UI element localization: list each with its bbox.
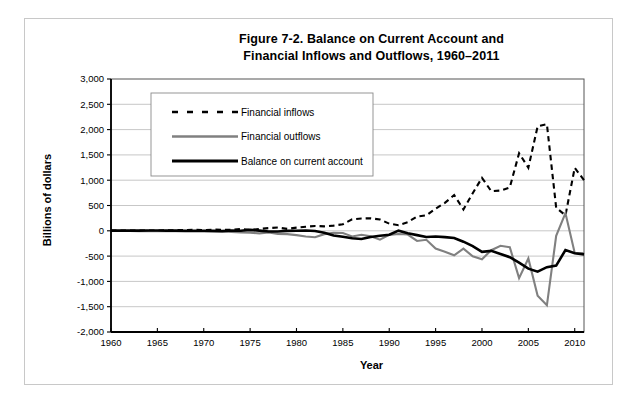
x-tick-label: 1970: [193, 337, 214, 348]
y-axis-ticks: 3,0002,5002,0001,5001,0005000-500-1,000-…: [77, 73, 111, 337]
x-tick-label: 2010: [564, 337, 585, 348]
chart-legend: Financial inflowsFinancial outflowsBalan…: [151, 93, 373, 176]
y-tick-label: 500: [88, 200, 104, 211]
y-tick-label: 1,500: [80, 149, 104, 160]
chart-plot: 3,0002,5002,0001,5001,0005000-500-1,000-…: [25, 19, 614, 386]
y-tick-label: 0: [99, 225, 104, 236]
y-tick-label: 2,000: [80, 124, 104, 135]
series-line: [111, 230, 584, 272]
x-tick-label: 1980: [286, 337, 307, 348]
x-tick-label: 1985: [332, 337, 353, 348]
y-tick-label: -2,000: [77, 326, 104, 337]
x-tick-label: 1960: [100, 337, 121, 348]
y-tick-label: -500: [85, 251, 104, 262]
figure-frame: Figure 7-2. Balance on Current Account a…: [24, 18, 613, 385]
legend-label: Balance on current account: [241, 156, 363, 167]
x-tick-label: 1995: [425, 337, 446, 348]
y-tick-label: -1,500: [77, 301, 104, 312]
x-tick-label: 1965: [147, 337, 168, 348]
y-tick-label: 3,000: [80, 73, 104, 84]
x-axis-ticks: 1960196519701975198019851990199520002005…: [100, 328, 585, 348]
legend-label: Financial outflows: [241, 131, 320, 142]
legend-label: Financial inflows: [241, 107, 314, 118]
y-tick-label: 1,000: [80, 175, 104, 186]
y-tick-label: -1,000: [77, 276, 104, 287]
x-tick-label: 1975: [240, 337, 261, 348]
y-tick-label: 2,500: [80, 99, 104, 110]
x-tick-label: 2005: [518, 337, 539, 348]
x-tick-label: 2000: [471, 337, 492, 348]
x-tick-label: 1990: [379, 337, 400, 348]
